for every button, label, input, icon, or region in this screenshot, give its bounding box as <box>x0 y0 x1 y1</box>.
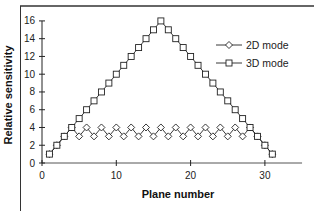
y-axis-title: Relative sensitivity <box>2 45 14 145</box>
square-marker <box>69 124 75 130</box>
square-marker <box>247 124 253 130</box>
x-tick-label: 0 <box>39 170 45 181</box>
square-marker <box>46 151 52 157</box>
square-marker <box>195 62 201 68</box>
y-tick-label: 2 <box>29 140 35 151</box>
x-tick-label: 10 <box>111 170 123 181</box>
square-marker <box>150 27 156 33</box>
legend-square-icon <box>226 60 232 66</box>
square-marker <box>232 107 238 113</box>
square-marker <box>113 71 119 77</box>
legend: 2D mode3D mode <box>216 39 289 69</box>
square-marker <box>240 116 246 122</box>
x-axis-title: Plane number <box>142 188 215 200</box>
legend-item: 2D mode <box>216 39 289 51</box>
square-marker <box>210 80 216 86</box>
square-marker <box>225 98 231 104</box>
square-marker <box>269 151 275 157</box>
square-marker <box>106 80 112 86</box>
square-marker <box>217 89 223 95</box>
square-marker <box>91 98 97 104</box>
y-tick-label: 16 <box>24 15 36 26</box>
y-tick-label: 0 <box>29 158 35 169</box>
legend-diamond-icon <box>226 42 233 49</box>
square-marker <box>180 45 186 51</box>
square-marker <box>54 142 60 148</box>
legend-item: 3D mode <box>216 57 289 69</box>
x-tick-label: 30 <box>259 170 271 181</box>
square-marker <box>84 107 90 113</box>
legend-label: 2D mode <box>246 39 289 51</box>
y-tick-label: 4 <box>29 122 35 133</box>
square-marker <box>158 18 164 24</box>
chart: 02468101214160102030 2D mode3D mode Plan… <box>0 0 314 211</box>
square-marker <box>128 53 134 59</box>
square-marker <box>165 27 171 33</box>
y-tick-label: 10 <box>24 69 36 80</box>
square-marker <box>202 71 208 77</box>
square-marker <box>173 36 179 42</box>
square-marker <box>136 45 142 51</box>
legend-label: 3D mode <box>246 57 289 69</box>
square-marker <box>143 36 149 42</box>
square-marker <box>61 133 67 139</box>
square-marker <box>98 89 104 95</box>
y-tick-label: 14 <box>24 33 36 44</box>
plot-area <box>46 18 276 158</box>
square-marker <box>188 53 194 59</box>
series-2d-mode <box>46 124 276 158</box>
square-marker <box>262 142 268 148</box>
y-tick-label: 8 <box>29 86 35 97</box>
square-marker <box>76 116 82 122</box>
y-tick-label: 12 <box>24 51 36 62</box>
square-marker <box>121 62 127 68</box>
square-marker <box>254 133 260 139</box>
x-tick-label: 20 <box>185 170 197 181</box>
y-tick-label: 6 <box>29 104 35 115</box>
